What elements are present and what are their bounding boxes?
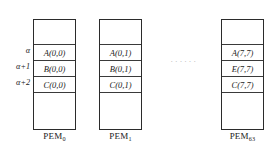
- memory-cell-0-2: C(0,0): [34, 76, 75, 92]
- pem-caption-sub-0: 0: [62, 135, 65, 142]
- pem-box-0: A(0,0) B(0,0) C(0,0): [33, 19, 76, 130]
- pem-caption-sub-1: 1: [128, 135, 131, 142]
- address-label-group: α α+1 α+2: [2, 43, 30, 91]
- pem-caption-base-63: PEM: [230, 131, 249, 141]
- memory-cell-63-0: A(7,7): [222, 44, 263, 60]
- memory-cell-1-0: A(0,1): [100, 44, 141, 60]
- memory-cell-0-0: A(0,0): [34, 44, 75, 60]
- memory-cell-63-1: E(7,7): [222, 60, 263, 76]
- memory-cell-63-2: C(7,7): [222, 76, 263, 92]
- address-label-alpha: α: [2, 43, 30, 59]
- pem-box-1: A(0,1) B(0,1) C(0,1): [99, 19, 142, 130]
- pem-column-63: A(7,7) E(7,7) C(7,7): [221, 19, 264, 130]
- pem-caption-0: PEM0: [33, 131, 76, 141]
- pem-caption-sub-63: 63: [249, 135, 256, 142]
- pem-caption-base-1: PEM: [109, 131, 128, 141]
- pem-box-63: A(7,7) E(7,7) C(7,7): [221, 19, 264, 130]
- pem-memory-layout-diagram: α α+1 α+2 A(0,0) B(0,0) C(0,0) PEM0 A(0,…: [0, 0, 278, 154]
- pem-column-0: A(0,0) B(0,0) C(0,0): [33, 19, 76, 130]
- memory-cell-empty-top-1: [100, 20, 141, 44]
- memory-cell-empty-bottom-63: [222, 92, 263, 129]
- ellipsis-separator: ······: [160, 56, 208, 66]
- memory-cell-empty-bottom-0: [34, 92, 75, 129]
- memory-cell-empty-bottom-1: [100, 92, 141, 129]
- pem-caption-63: PEM63: [221, 131, 264, 141]
- memory-cell-empty-top-0: [34, 20, 75, 44]
- memory-cell-1-2: C(0,1): [100, 76, 141, 92]
- pem-caption-base-0: PEM: [43, 131, 62, 141]
- pem-column-1: A(0,1) B(0,1) C(0,1): [99, 19, 142, 130]
- memory-cell-empty-top-63: [222, 20, 263, 44]
- address-label-alpha-plus-1: α+1: [2, 59, 30, 75]
- memory-cell-1-1: B(0,1): [100, 60, 141, 76]
- address-label-alpha-plus-2: α+2: [2, 75, 30, 91]
- pem-caption-1: PEM1: [99, 131, 142, 141]
- memory-cell-0-1: B(0,0): [34, 60, 75, 76]
